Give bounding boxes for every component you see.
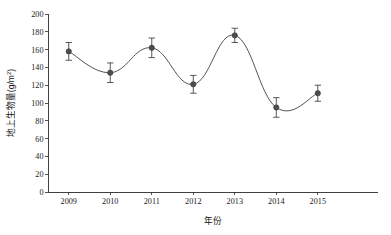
- x-tick-label: 2009: [61, 197, 77, 206]
- x-axis-title: 年份: [204, 215, 222, 226]
- y-tick-label: 20: [35, 170, 43, 179]
- data-line-biomass: [69, 35, 318, 111]
- y-tick-label: 160: [31, 46, 43, 55]
- y-tick-label: 40: [35, 152, 43, 161]
- x-tick-label: 2012: [185, 197, 201, 206]
- y-axis-title-tail: ): [6, 69, 16, 72]
- data-point-marker: [274, 105, 279, 110]
- chart-container: 020406080100120140160180200 200920102011…: [0, 0, 391, 235]
- data-point-marker: [191, 82, 196, 87]
- y-tick-label: 140: [31, 63, 43, 72]
- y-axis-tick-labels: 020406080100120140160180200: [31, 10, 43, 197]
- x-tick-label: 2011: [144, 197, 160, 206]
- y-tick-label: 100: [31, 99, 43, 108]
- x-tick-label: 2010: [102, 197, 118, 206]
- biomass-line-chart: 020406080100120140160180200 200920102011…: [0, 0, 391, 235]
- data-point-markers: [66, 33, 320, 110]
- x-tick-label: 2015: [310, 197, 326, 206]
- data-point-marker: [108, 70, 113, 75]
- y-axis-title-main: 地上生物量(g/m: [5, 75, 16, 137]
- y-tick-label: 200: [31, 10, 43, 19]
- data-point-marker: [149, 45, 154, 50]
- y-tick-label: 60: [35, 135, 43, 144]
- x-tick-label: 2014: [268, 197, 284, 206]
- x-tick-label: 2013: [227, 197, 243, 206]
- y-tick-label: 180: [31, 28, 43, 37]
- x-axis-tick-labels: 2009201020112012201320142015: [61, 197, 326, 206]
- y-tick-label: 80: [35, 117, 43, 126]
- y-tick-label: 120: [31, 81, 43, 90]
- y-tick-label: 0: [39, 188, 43, 197]
- data-point-marker: [315, 91, 320, 96]
- data-point-marker: [232, 33, 237, 38]
- y-axis-title: 地上生物量(g/m2): [5, 69, 16, 138]
- data-point-marker: [66, 49, 71, 54]
- error-bars: [66, 28, 321, 117]
